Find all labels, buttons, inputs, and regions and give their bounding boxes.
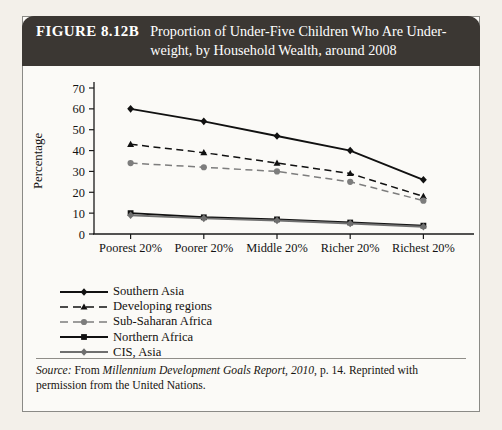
legend-item[interactable]: Northern Africa [58,330,318,345]
data-point-circle [128,160,134,166]
source-prefix: Source: [36,364,72,377]
data-point-circle [420,198,426,204]
legend-label: Southern Asia [110,284,184,299]
legend-marker-icon [58,300,110,314]
legend-item[interactable]: Southern Asia [58,284,318,299]
legend-key-swatch [58,315,110,329]
series-sub-saharan-africa [128,160,427,204]
data-point-diamond [127,105,134,113]
legend-key-swatch [58,285,110,299]
figure-title-line-1: Proportion of Under-Five Children Who Ar… [150,23,446,39]
legend-label: Developing regions [110,299,212,314]
legend-item[interactable]: Sub-Saharan Africa [58,314,318,329]
source-text-before: From [72,364,103,377]
chart-legend: Southern AsiaDeveloping regionsSub-Sahar… [58,284,318,360]
legend-label: Sub-Saharan Africa [110,314,212,329]
figure-title-banner: FIGURE 8.12B Proportion of Under-Five Ch… [22,16,480,66]
data-point-circle [201,164,207,170]
data-point-diamond [200,118,207,126]
legend-item[interactable]: Developing regions [58,299,318,314]
legend-label: Northern Africa [110,330,193,345]
x-axis-tick-label: Richer 20% [321,241,380,255]
y-axis-tick-label: 0 [79,228,85,242]
figure-title: Proportion of Under-Five Children Who Ar… [150,22,446,60]
source-divider [36,358,466,359]
data-point-diamond [81,288,88,296]
y-axis-tick-label: 40 [73,144,85,158]
data-point-circle [347,179,353,185]
y-axis-tick-label: 70 [73,82,85,96]
y-axis-tick-label: 10 [73,207,85,221]
figure-root: FIGURE 8.12B Proportion of Under-Five Ch… [0,0,502,430]
legend-key-swatch [58,300,110,314]
data-point-square [81,334,87,340]
data-point-circle [274,168,280,174]
figure-number-label: FIGURE 8.12B [36,22,150,41]
x-axis-tick-label: Poorest 20% [99,241,162,255]
line-chart: 010203040506070PercentagePoorest 20%Poor… [22,66,480,276]
data-point-triangle [274,159,281,165]
data-point-diamond [274,132,281,140]
data-point-circle [81,319,87,325]
y-axis-tick-label: 30 [73,165,85,179]
series-cis-asia [127,211,427,230]
figure-title-line-2: weight, by Household Wealth, around 2008 [150,42,396,58]
data-point-diamond [347,147,354,155]
y-axis-title: Percentage [31,133,45,189]
x-axis-tick-label: Middle 20% [246,241,308,255]
y-axis-tick-label: 60 [73,102,85,116]
legend-marker-icon [58,285,110,299]
data-point-triangle [127,141,134,147]
y-axis-tick-label: 50 [73,123,85,137]
source-italic-title: Millennium Development Goals Report, 201… [103,364,315,377]
data-point-diamond [81,349,88,357]
x-axis-tick-label: Richest 20% [392,241,455,255]
x-axis-tick-label: Poorer 20% [174,241,233,255]
legend-marker-icon [58,315,110,329]
source-note: Source: From Millennium Development Goal… [36,364,464,393]
legend-key-swatch [58,330,110,344]
legend-marker-icon [58,330,110,344]
data-point-diamond [420,176,427,184]
y-axis-tick-label: 20 [73,186,85,200]
chart-area: 010203040506070PercentagePoorest 20%Poor… [22,66,480,412]
